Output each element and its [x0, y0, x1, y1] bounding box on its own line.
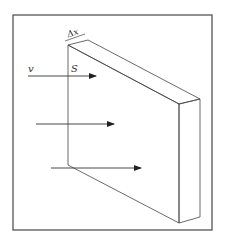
thickness-label: Δx: [65, 26, 80, 39]
slab-side-face: [179, 99, 200, 223]
slab-front-face: [68, 45, 179, 223]
surface-label: S: [71, 63, 78, 74]
velocity-label: v: [28, 63, 34, 74]
slab-flux-diagram: Δx v S: [0, 0, 225, 241]
slab-top-face: [68, 40, 200, 104]
figure-frame: [13, 15, 212, 230]
